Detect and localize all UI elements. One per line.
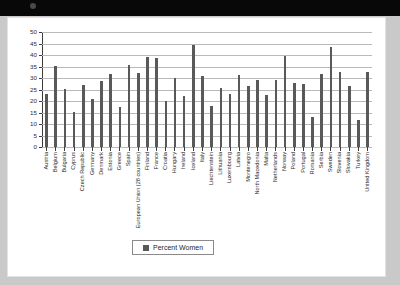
x-axis-tick-mark	[46, 147, 47, 151]
x-axis-tick-label: Poland	[291, 152, 297, 169]
x-label-slot: Czech Republic	[79, 152, 88, 262]
x-tick-slot	[70, 147, 79, 151]
bar	[155, 58, 158, 147]
x-axis-tick-label: Lithuania	[218, 152, 224, 175]
x-tick-slot	[290, 147, 299, 151]
x-axis-tick-label: Hungary	[172, 152, 178, 173]
y-axis-tick-label: 50	[16, 29, 37, 35]
x-label-slot: Luxembourg	[225, 152, 234, 262]
bar-slot	[363, 32, 372, 147]
bar	[256, 80, 259, 147]
x-axis-tick-label: European Union (28 countries)	[136, 152, 142, 228]
x-axis-tick-label: Croatia	[163, 152, 169, 170]
y-axis-tick-label: 0	[16, 144, 37, 150]
bar	[247, 86, 250, 147]
x-tick-slot	[280, 147, 289, 151]
x-axis-tick-label: Netherlands	[273, 152, 279, 182]
x-tick-slot	[143, 147, 152, 151]
x-tick-slot	[170, 147, 179, 151]
bar	[220, 88, 223, 147]
x-tick-slot	[134, 147, 143, 151]
x-axis-tick-mark	[275, 147, 276, 151]
x-axis-tick-mark	[64, 147, 65, 151]
bar-slot	[225, 32, 234, 147]
x-tick-slot	[106, 147, 115, 151]
x-axis-tick-mark	[110, 147, 111, 151]
x-tick-slot	[363, 147, 372, 151]
x-tick-slot	[262, 147, 271, 151]
bar-slot	[42, 32, 51, 147]
x-axis-tick-label: Estonia	[108, 152, 114, 171]
y-axis-tick-label: 20	[16, 98, 37, 104]
bar	[82, 85, 85, 147]
x-label-slot: Latvia	[235, 152, 244, 262]
bar	[119, 107, 122, 147]
bar-chart: 50454035302520151050 AustriaBelgiumBulga…	[8, 18, 385, 276]
x-label-slot: Norway	[280, 152, 289, 262]
x-axis-tick-mark	[184, 147, 185, 151]
x-label-slot: Netherlands	[271, 152, 280, 262]
bar	[54, 66, 57, 147]
bar-slot	[244, 32, 253, 147]
bar-slot	[70, 32, 79, 147]
bar-slot	[354, 32, 363, 147]
bar-slot	[88, 32, 97, 147]
x-axis-tick-label: Portugal	[301, 152, 307, 173]
document-page: 50454035302520151050 AustriaBelgiumBulga…	[8, 18, 385, 276]
x-tick-slot	[235, 147, 244, 151]
x-axis-tick-label: Malta	[264, 152, 270, 166]
x-label-slot: Cyprus	[70, 152, 79, 262]
bar	[137, 73, 140, 147]
bar	[183, 96, 186, 147]
y-axis-tick-label: 45	[16, 41, 37, 47]
x-axis-tick-label: Austria	[44, 152, 50, 169]
x-tick-slot	[317, 147, 326, 151]
bar	[339, 72, 342, 147]
x-axis-tick-label: France	[154, 152, 160, 169]
x-axis-tick-mark	[230, 147, 231, 151]
bar-slot	[97, 32, 106, 147]
x-tick-slot	[88, 147, 97, 151]
x-axis-tick-label: Ireland	[181, 152, 187, 169]
bar-slot	[207, 32, 216, 147]
bar-slot	[60, 32, 69, 147]
x-tick-slot	[51, 147, 60, 151]
x-axis-tick-label: Cyprus	[71, 152, 77, 170]
window-titlebar	[0, 0, 400, 16]
bar-slot	[336, 32, 345, 147]
bar	[192, 45, 195, 147]
x-label-slot: Montenegro	[244, 152, 253, 262]
bar-slot	[115, 32, 124, 147]
bar	[229, 94, 232, 147]
x-tick-slot	[326, 147, 335, 151]
bar-slot	[299, 32, 308, 147]
x-axis-tick-mark	[303, 147, 304, 151]
x-axis-tick-mark	[330, 147, 331, 151]
x-axis-tick-label: Turkey	[356, 152, 362, 169]
bar-slot	[106, 32, 115, 147]
x-axis-tick-mark	[211, 147, 212, 151]
x-axis-tick-label: Slovakia	[346, 152, 352, 173]
bar-slot	[290, 32, 299, 147]
bar	[174, 78, 177, 147]
x-axis-tick-label: Belgium	[53, 152, 59, 172]
bar	[238, 75, 241, 147]
y-axis-tick-label: 15	[16, 110, 37, 116]
bar-slot	[308, 32, 317, 147]
bar	[45, 94, 48, 147]
x-axis-tick-mark	[220, 147, 221, 151]
bar-slot	[326, 32, 335, 147]
y-axis-tick-label: 25	[16, 87, 37, 93]
x-axis-tick-mark	[165, 147, 166, 151]
x-axis-tick-label: Latvia	[236, 152, 242, 167]
x-label-slot: Turkey	[354, 152, 363, 262]
bar	[293, 83, 296, 147]
x-axis-tick-label: Romania	[310, 152, 316, 174]
x-label-slot: Bulgaria	[60, 152, 69, 262]
x-axis-tick-mark	[294, 147, 295, 151]
x-tick-slot	[161, 147, 170, 151]
x-tick-slot	[42, 147, 51, 151]
x-label-slot: Serbia	[317, 152, 326, 262]
bar	[265, 95, 268, 147]
legend-swatch-icon	[143, 245, 149, 251]
